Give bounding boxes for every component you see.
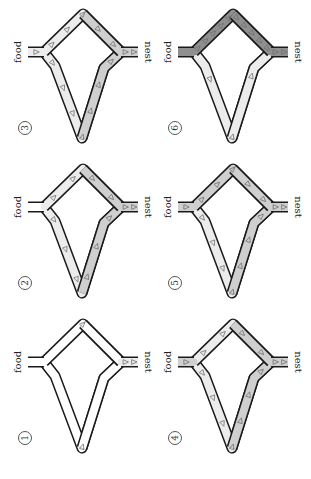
food-junction — [41, 359, 48, 366]
food-label: food — [12, 350, 23, 373]
food-label: food — [12, 195, 23, 218]
panel-3: foodnest3 — [12, 12, 154, 140]
food-label: food — [162, 40, 173, 63]
nest-label: nest — [293, 351, 304, 373]
nest-label: nest — [293, 196, 304, 218]
panel-4: foodnest4 — [162, 324, 304, 450]
short-branch-near-nest-fill — [83, 169, 121, 207]
ant-bridge-diagram: foodnest1foodnest2foodnest3foodnest4food… — [0, 0, 311, 479]
panel-number: 3 — [20, 125, 30, 131]
panel-1: foodnest1 — [12, 322, 154, 450]
panel-2: foodnest2 — [12, 169, 154, 293]
panel-number: 2 — [20, 280, 30, 286]
short-branch-near-nest-fill — [83, 324, 121, 362]
food-junction — [41, 49, 48, 56]
food-junction — [41, 204, 48, 211]
nest-label: nest — [293, 41, 304, 63]
food-junction — [191, 359, 198, 366]
panel-5: foodnest5 — [162, 167, 304, 295]
food-junction — [191, 204, 198, 211]
panel-number: 5 — [170, 280, 180, 286]
nest-label: nest — [143, 41, 154, 63]
panel-6: foodnest6 — [162, 14, 304, 140]
panel-number: 6 — [170, 125, 180, 131]
food-label: food — [162, 350, 173, 373]
nest-label: nest — [143, 196, 154, 218]
panel-number: 1 — [20, 435, 30, 441]
food-label: food — [162, 195, 173, 218]
food-label: food — [12, 40, 23, 63]
nest-label: nest — [143, 351, 154, 373]
panel-number: 4 — [170, 435, 180, 441]
short-branch-near-nest-fill — [233, 324, 271, 362]
